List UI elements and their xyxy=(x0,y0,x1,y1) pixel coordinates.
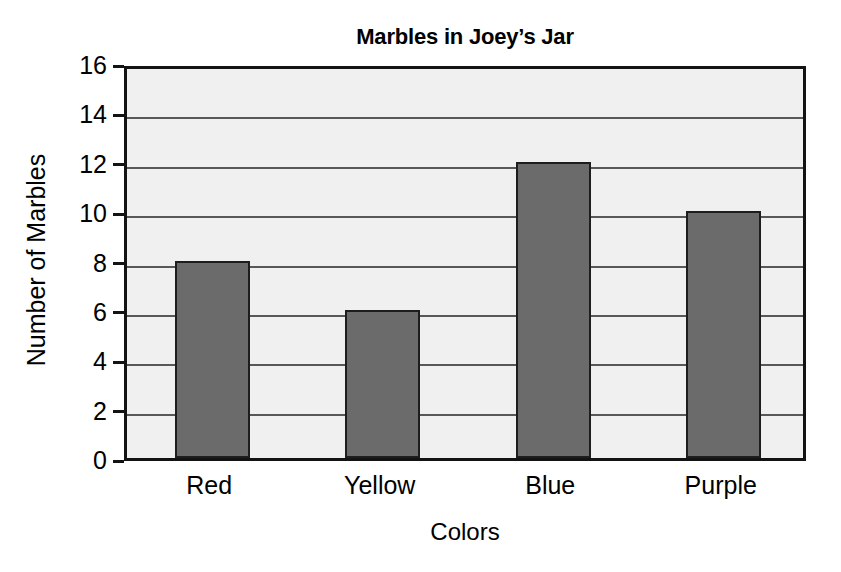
y-tick-mark xyxy=(113,114,124,117)
x-tick-label-yellow: Yellow xyxy=(295,470,466,500)
gridline xyxy=(127,117,803,119)
y-tick-mark xyxy=(113,460,124,463)
x-tick-label-purple: Purple xyxy=(636,470,807,500)
y-tick-label: 6 xyxy=(45,300,107,325)
y-tick-mark xyxy=(113,311,124,314)
y-tick-label-text: 2 xyxy=(47,399,107,424)
bar-chart-figure: Marbles in Joey’s Jar Number of Marbles … xyxy=(0,0,841,572)
y-tick-label: 8 xyxy=(45,251,107,276)
y-tick-label-text: 14 xyxy=(47,102,107,127)
y-tick-mark xyxy=(113,163,124,166)
x-tick-label-blue: Blue xyxy=(465,470,636,500)
y-tick-label-text: 8 xyxy=(47,251,107,276)
gridline xyxy=(127,167,803,169)
y-tick-label: 14 xyxy=(45,102,107,127)
y-tick-label: 2 xyxy=(45,399,107,424)
y-tick-label: 0 xyxy=(45,448,107,473)
bar-blue xyxy=(516,162,591,458)
y-tick-label: 16 xyxy=(45,53,107,78)
x-axis-title: Colors xyxy=(124,518,806,546)
y-tick-label: 10 xyxy=(45,201,107,226)
y-tick-label-text: 4 xyxy=(47,349,107,374)
y-tick-label-text: 10 xyxy=(47,201,107,226)
y-tick-label-text: 12 xyxy=(47,152,107,177)
x-tick-label-red: Red xyxy=(124,470,295,500)
y-tick-label: 4 xyxy=(45,349,107,374)
bar-purple xyxy=(686,211,761,458)
bar-yellow xyxy=(345,310,420,458)
y-tick-mark xyxy=(113,262,124,265)
y-tick-mark xyxy=(113,361,124,364)
bar-red xyxy=(175,261,250,459)
y-tick-label-text: 16 xyxy=(47,53,107,78)
plot-inner xyxy=(127,69,803,458)
y-tick-mark xyxy=(113,410,124,413)
plot-area xyxy=(124,66,806,461)
y-tick-label: 12 xyxy=(45,152,107,177)
y-tick-label-text: 6 xyxy=(47,300,107,325)
y-tick-label-text: 0 xyxy=(47,448,107,473)
y-tick-mark xyxy=(113,65,124,68)
y-tick-mark xyxy=(113,213,124,216)
